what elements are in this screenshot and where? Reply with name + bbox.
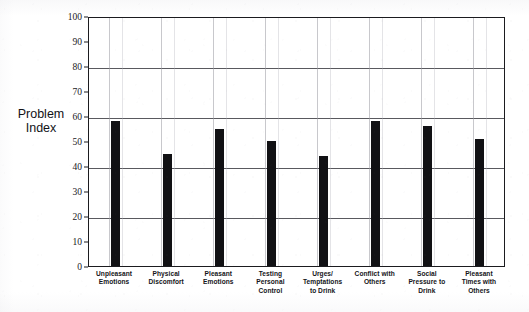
x-category-label-8-line-1: Pleasant <box>450 270 508 278</box>
vertical-separator-3-2 <box>226 18 227 266</box>
x-category-label-2: PhysicalDiscomfort <box>137 270 195 287</box>
vertical-separator-7-1 <box>421 18 422 266</box>
x-category-label-8: PleasantTimes withOthers <box>450 270 508 295</box>
vertical-separator-5-2 <box>330 18 331 266</box>
x-category-label-5-line-1: Urges/ <box>294 270 352 278</box>
vertical-separator-3-1 <box>213 18 214 266</box>
x-category-label-6-line-1: Conflict with <box>346 270 404 278</box>
x-category-label-5-line-3: to Drink <box>294 287 352 295</box>
x-axis-category-labels: UnpleasantEmotionsPhysicalDiscomfortPlea… <box>88 270 505 310</box>
bar-4 <box>267 141 276 266</box>
x-category-label-4: TestingPersonalControl <box>241 270 299 295</box>
y-tick-label-0: 0 <box>77 262 82 272</box>
vertical-separator-1-1 <box>109 18 110 266</box>
y-tick-mark-80 <box>84 67 88 68</box>
plot-inner <box>89 18 504 266</box>
x-category-label-7-line-2: Pressure to <box>398 278 456 286</box>
x-category-label-7-line-3: Drink <box>398 287 456 295</box>
y-tick-mark-40 <box>84 167 88 168</box>
vertical-separator-8-1 <box>473 18 474 266</box>
y-tick-label-70: 70 <box>73 87 83 97</box>
vertical-separator-2-1 <box>161 18 162 266</box>
x-category-label-3-line-2: Emotions <box>189 278 247 286</box>
x-category-label-2-line-1: Physical <box>137 270 195 278</box>
y-tick-label-60: 60 <box>73 112 83 122</box>
bar-7 <box>423 126 432 266</box>
y-tick-mark-10 <box>84 242 88 243</box>
y-tick-label-80: 80 <box>73 62 83 72</box>
x-category-label-8-line-2: Times with <box>450 278 508 286</box>
vertical-separator-5-1 <box>317 18 318 266</box>
cropped-header-strip <box>0 0 529 12</box>
y-tick-mark-70 <box>84 92 88 93</box>
vertical-separator-2-2 <box>174 18 175 266</box>
x-category-label-5: Urges/Temptationsto Drink <box>294 270 352 295</box>
x-category-label-8-line-3: Others <box>450 287 508 295</box>
x-category-label-6-line-2: Others <box>346 278 404 286</box>
y-tick-mark-50 <box>84 142 88 143</box>
y-tick-label-10: 10 <box>73 237 83 247</box>
y-tick-label-20: 20 <box>73 212 83 222</box>
bar-2 <box>163 154 172 267</box>
bar-8 <box>475 139 484 267</box>
bar-6 <box>371 121 380 266</box>
vertical-separator-7-2 <box>434 18 435 266</box>
y-tick-label-90: 90 <box>73 37 83 47</box>
gridline-y-60 <box>89 118 504 119</box>
vertical-separator-8-2 <box>486 18 487 266</box>
x-category-label-5-line-2: Temptations <box>294 278 352 286</box>
chart-plot-area <box>88 17 505 267</box>
x-category-label-4-line-2: Personal <box>241 278 299 286</box>
y-tick-label-40: 40 <box>73 162 83 172</box>
x-category-label-4-line-3: Control <box>241 287 299 295</box>
y-tick-mark-0 <box>84 267 88 268</box>
gridline-y-80 <box>89 68 504 69</box>
bar-5 <box>319 156 328 266</box>
bar-3 <box>215 129 224 267</box>
x-category-label-1-line-1: Unpleasant <box>85 270 143 278</box>
y-tick-mark-90 <box>84 42 88 43</box>
vertical-separator-6-1 <box>369 18 370 266</box>
x-category-label-3-line-1: Pleasant <box>189 270 247 278</box>
vertical-separator-6-2 <box>382 18 383 266</box>
x-category-label-2-line-2: Discomfort <box>137 278 195 286</box>
vertical-separator-4-2 <box>278 18 279 266</box>
vertical-separator-4-1 <box>265 18 266 266</box>
bar-1 <box>111 121 120 266</box>
gridline-y-20 <box>89 218 504 219</box>
y-tick-mark-100 <box>84 17 88 18</box>
y-tick-label-50: 50 <box>73 137 83 147</box>
x-category-label-3: PleasantEmotions <box>189 270 247 287</box>
x-category-label-6: Conflict withOthers <box>346 270 404 287</box>
x-category-label-7: SocialPressure toDrink <box>398 270 456 295</box>
x-category-label-7-line-1: Social <box>398 270 456 278</box>
x-category-label-1: UnpleasantEmotions <box>85 270 143 287</box>
vertical-separator-1-2 <box>122 18 123 266</box>
x-category-label-1-line-2: Emotions <box>85 278 143 286</box>
y-tick-mark-30 <box>84 192 88 193</box>
y-tick-label-30: 30 <box>73 187 83 197</box>
gridline-y-40 <box>89 168 504 169</box>
x-category-label-4-line-1: Testing <box>241 270 299 278</box>
y-tick-mark-20 <box>84 217 88 218</box>
y-tick-label-100: 100 <box>68 12 82 22</box>
y-axis-ticks: 0102030405060708090100 <box>0 17 88 267</box>
y-tick-mark-60 <box>84 117 88 118</box>
